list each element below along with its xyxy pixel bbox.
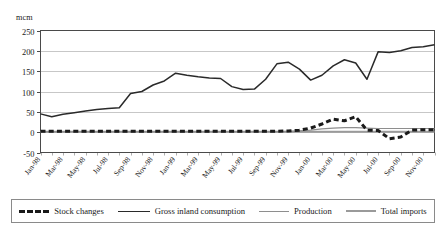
svg-text:50: 50 xyxy=(26,109,34,118)
legend-item-total-imports: Total imports xyxy=(346,206,427,216)
series-line-stock-changes xyxy=(41,117,435,139)
svg-text:Nov-98: Nov-98 xyxy=(133,155,155,179)
svg-text:May-99: May-99 xyxy=(200,155,222,180)
x-axis-labels: Jan-98Mar-98May-98Jul-98Sep-98Nov-98Jan-… xyxy=(23,155,425,180)
svg-text:Mar-99: Mar-99 xyxy=(179,155,200,179)
legend-swatch-stock-changes-icon xyxy=(19,210,49,213)
legend-item-production: Production xyxy=(259,206,332,216)
svg-text:Jul-98: Jul-98 xyxy=(91,155,110,176)
data-series-layer xyxy=(41,45,435,139)
svg-text:Nov-00: Nov-00 xyxy=(403,155,425,179)
legend-swatch-gross-inland-consumption-icon xyxy=(118,211,150,212)
svg-text:0: 0 xyxy=(30,129,34,138)
svg-text:Sep-98: Sep-98 xyxy=(112,155,132,178)
legend-label-production: Production xyxy=(294,206,332,216)
legend-item-stock-changes: Stock changes xyxy=(19,206,103,216)
svg-text:May-98: May-98 xyxy=(65,155,87,180)
svg-text:200: 200 xyxy=(22,48,35,57)
legend-label-stock-changes: Stock changes xyxy=(54,206,103,216)
svg-text:Nov-99: Nov-99 xyxy=(268,155,290,179)
svg-text:Jan-00: Jan-00 xyxy=(293,155,313,177)
svg-text:150: 150 xyxy=(22,68,35,77)
svg-text:Mar-00: Mar-00 xyxy=(314,155,335,179)
svg-text:250: 250 xyxy=(22,28,35,37)
svg-text:Sep-99: Sep-99 xyxy=(247,155,267,178)
svg-text:Jan-99: Jan-99 xyxy=(158,155,178,177)
plot-area: 250200150100500-50 Jan-98Mar-98May-98Jul… xyxy=(0,0,446,200)
series-line-gross-inland-consumption xyxy=(41,45,435,117)
gridlines xyxy=(41,52,435,133)
svg-text:Jul-00: Jul-00 xyxy=(361,155,380,176)
chart-figure: mcm 250200150100500-50 Jan-98Mar-98May-9… xyxy=(0,0,446,233)
plot-frame xyxy=(41,31,435,153)
legend-swatch-production-icon xyxy=(259,211,289,212)
svg-text:Sep-00: Sep-00 xyxy=(382,155,402,178)
svg-text:Mar-98: Mar-98 xyxy=(44,155,65,179)
svg-text:May-00: May-00 xyxy=(335,155,357,180)
svg-text:100: 100 xyxy=(22,89,35,98)
y-axis-ticks: 250200150100500-50 xyxy=(22,28,41,159)
legend-swatch-total-imports-icon xyxy=(346,210,376,212)
chart-legend: Stock changes Gross inland consumption P… xyxy=(11,199,435,223)
legend-label-gross-inland-consumption: Gross inland consumption xyxy=(155,206,245,216)
svg-text:Jul-99: Jul-99 xyxy=(226,155,245,176)
legend-label-total-imports: Total imports xyxy=(381,206,427,216)
legend-item-gross-inland-consumption: Gross inland consumption xyxy=(118,206,245,216)
